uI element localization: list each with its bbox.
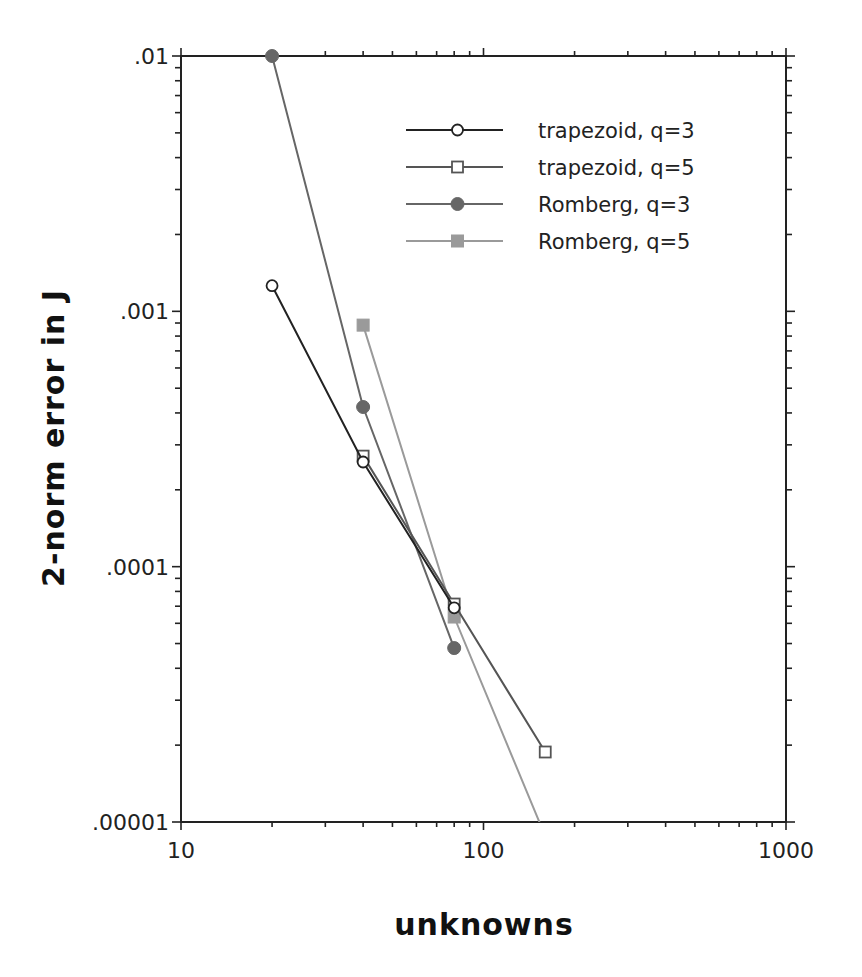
legend-label: trapezoid, q=3: [538, 119, 695, 143]
data-point: [357, 401, 370, 414]
series-romberg-q-5: [357, 319, 545, 836]
legend-item: Romberg, q=5: [406, 230, 690, 254]
chart: 101001000.00001.0001.001.01 trapezoid, q…: [0, 0, 862, 977]
x-tick-label: 100: [463, 838, 505, 863]
legend-marker: [452, 162, 463, 173]
series-line: [363, 325, 545, 836]
y-tick-label: .001: [120, 299, 169, 324]
plot-axes: [181, 56, 786, 822]
y-tick-label: .00001: [92, 810, 169, 835]
legend-marker: [451, 198, 464, 211]
legend-label: Romberg, q=5: [538, 230, 690, 254]
legend-marker: [452, 235, 464, 247]
series-romberg-q-3: [266, 50, 461, 655]
data-point: [358, 456, 369, 467]
data-point: [448, 642, 461, 655]
data-point: [449, 602, 460, 613]
axis-ticks: [172, 48, 795, 830]
x-tick-label: 10: [167, 838, 195, 863]
y-tick-label: .0001: [106, 555, 169, 580]
data-point: [267, 280, 278, 291]
legend: trapezoid, q=3trapezoid, q=5Romberg, q=3…: [406, 119, 695, 254]
data-point: [540, 746, 551, 757]
x-axis-title: unknowns: [394, 907, 574, 942]
data-point: [357, 319, 369, 331]
legend-item: trapezoid, q=5: [406, 156, 695, 180]
legend-label: Romberg, q=3: [538, 193, 690, 217]
legend-item: trapezoid, q=3: [406, 119, 695, 143]
data-point: [266, 50, 279, 63]
legend-label: trapezoid, q=5: [538, 156, 695, 180]
y-axis-title: 2-norm error in J: [36, 289, 71, 587]
legend-item: Romberg, q=3: [406, 193, 690, 217]
y-tick-label: .01: [134, 44, 169, 69]
plot-frame: [181, 56, 786, 822]
legend-marker: [452, 125, 463, 136]
x-tick-label: 1000: [758, 838, 814, 863]
